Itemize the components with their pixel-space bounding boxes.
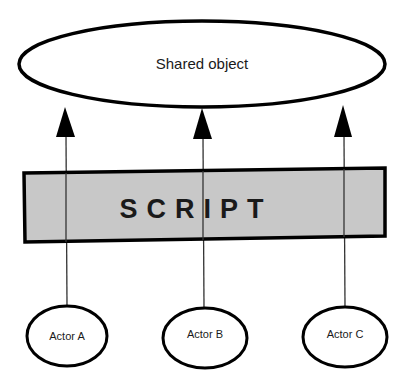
actor-a-label: Actor A [49, 330, 85, 342]
actor-c-label: Actor C [327, 328, 364, 340]
actor-b-node: Actor B [163, 308, 247, 368]
shared-object-node: Shared object [19, 21, 385, 107]
arrowhead-b-icon [193, 108, 212, 139]
actor-a-node: Actor A [27, 306, 107, 366]
script-box: SCRIPT [24, 168, 385, 242]
arrowhead-c-icon [334, 105, 352, 137]
actor-c-node: Actor C [303, 307, 387, 367]
arrowhead-a-icon [56, 107, 75, 137]
actor-b-label: Actor B [187, 328, 223, 340]
diagram-canvas: Shared object SCRIPT Actor A Actor B Act… [0, 0, 407, 390]
arrowheads [56, 105, 352, 139]
shared-object-label: Shared object [156, 55, 249, 72]
script-label: SCRIPT [119, 194, 272, 224]
